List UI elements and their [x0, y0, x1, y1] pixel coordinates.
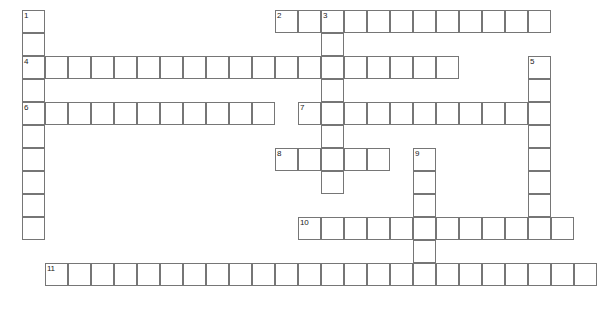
crossword-cell[interactable] — [160, 102, 183, 125]
crossword-cell[interactable] — [344, 263, 367, 286]
crossword-cell[interactable] — [528, 217, 551, 240]
crossword-cell[interactable] — [321, 33, 344, 56]
crossword-cell[interactable] — [252, 56, 275, 79]
crossword-cell[interactable] — [160, 56, 183, 79]
crossword-cell[interactable] — [551, 263, 574, 286]
crossword-cell[interactable] — [505, 10, 528, 33]
crossword-cell[interactable] — [367, 148, 390, 171]
crossword-cell[interactable] — [413, 10, 436, 33]
crossword-cell[interactable] — [459, 263, 482, 286]
crossword-cell[interactable] — [252, 263, 275, 286]
crossword-cell[interactable] — [505, 102, 528, 125]
crossword-cell[interactable] — [68, 102, 91, 125]
crossword-cell[interactable] — [22, 125, 45, 148]
crossword-cell[interactable] — [390, 102, 413, 125]
crossword-cell[interactable] — [367, 102, 390, 125]
crossword-cell[interactable] — [321, 171, 344, 194]
crossword-cell[interactable] — [436, 263, 459, 286]
crossword-cell[interactable] — [436, 102, 459, 125]
crossword-cell[interactable] — [321, 148, 344, 171]
crossword-cell[interactable] — [229, 56, 252, 79]
crossword-cell[interactable] — [114, 263, 137, 286]
crossword-cell[interactable] — [344, 217, 367, 240]
crossword-cell[interactable] — [390, 10, 413, 33]
crossword-cell[interactable] — [436, 56, 459, 79]
crossword-cell[interactable] — [482, 102, 505, 125]
crossword-cell[interactable] — [252, 102, 275, 125]
crossword-cell[interactable] — [298, 10, 321, 33]
crossword-cell[interactable] — [413, 56, 436, 79]
crossword-cell[interactable] — [390, 217, 413, 240]
crossword-cell[interactable] — [390, 56, 413, 79]
crossword-cell[interactable] — [459, 217, 482, 240]
crossword-cell[interactable] — [68, 263, 91, 286]
crossword-cell[interactable] — [22, 217, 45, 240]
crossword-cell[interactable] — [22, 79, 45, 102]
crossword-cell[interactable] — [344, 10, 367, 33]
crossword-cell[interactable] — [321, 217, 344, 240]
crossword-cell[interactable] — [298, 56, 321, 79]
crossword-cell[interactable] — [91, 56, 114, 79]
crossword-cell[interactable] — [551, 217, 574, 240]
crossword-cell[interactable] — [22, 171, 45, 194]
crossword-cell[interactable] — [459, 10, 482, 33]
crossword-cell[interactable] — [482, 263, 505, 286]
crossword-cell[interactable] — [367, 10, 390, 33]
crossword-cell[interactable] — [114, 56, 137, 79]
crossword-cell[interactable] — [413, 217, 436, 240]
crossword-cell[interactable] — [137, 56, 160, 79]
crossword-cell[interactable] — [137, 102, 160, 125]
crossword-cell[interactable] — [367, 263, 390, 286]
crossword-cell[interactable] — [528, 171, 551, 194]
crossword-cell[interactable] — [528, 148, 551, 171]
crossword-cell[interactable] — [344, 56, 367, 79]
crossword-cell[interactable] — [413, 240, 436, 263]
crossword-cell[interactable] — [413, 263, 436, 286]
crossword-cell[interactable] — [344, 148, 367, 171]
crossword-cell[interactable] — [206, 56, 229, 79]
crossword-cell[interactable] — [321, 56, 344, 79]
crossword-cell[interactable] — [114, 102, 137, 125]
crossword-cell[interactable] — [45, 102, 68, 125]
crossword-cell[interactable] — [321, 125, 344, 148]
crossword-cell[interactable] — [298, 263, 321, 286]
crossword-cell[interactable] — [22, 194, 45, 217]
crossword-cell[interactable] — [183, 56, 206, 79]
crossword-cell[interactable] — [528, 194, 551, 217]
crossword-grid[interactable]: 1234567891011 — [0, 0, 609, 314]
crossword-cell[interactable] — [528, 263, 551, 286]
crossword-cell[interactable] — [275, 263, 298, 286]
crossword-cell[interactable] — [183, 263, 206, 286]
crossword-cell[interactable] — [275, 56, 298, 79]
crossword-cell[interactable] — [528, 79, 551, 102]
crossword-cell[interactable] — [321, 263, 344, 286]
crossword-cell[interactable] — [344, 102, 367, 125]
crossword-cell[interactable] — [528, 102, 551, 125]
crossword-cell[interactable] — [505, 263, 528, 286]
crossword-cell[interactable] — [528, 10, 551, 33]
crossword-cell[interactable] — [160, 263, 183, 286]
crossword-cell[interactable] — [367, 56, 390, 79]
crossword-cell[interactable] — [321, 102, 344, 125]
crossword-cell[interactable] — [367, 217, 390, 240]
crossword-cell[interactable] — [137, 263, 160, 286]
crossword-cell[interactable] — [68, 56, 91, 79]
crossword-cell[interactable] — [459, 102, 482, 125]
crossword-cell[interactable] — [574, 263, 597, 286]
crossword-cell[interactable] — [390, 263, 413, 286]
crossword-cell[interactable] — [436, 10, 459, 33]
crossword-cell[interactable] — [436, 217, 459, 240]
crossword-cell[interactable] — [45, 56, 68, 79]
crossword-cell[interactable] — [505, 217, 528, 240]
crossword-cell[interactable] — [22, 148, 45, 171]
crossword-cell[interactable] — [482, 10, 505, 33]
crossword-cell[interactable] — [91, 102, 114, 125]
crossword-cell[interactable] — [413, 102, 436, 125]
crossword-cell[interactable] — [229, 102, 252, 125]
crossword-cell[interactable] — [206, 263, 229, 286]
crossword-cell[interactable] — [229, 263, 252, 286]
crossword-cell[interactable] — [206, 102, 229, 125]
crossword-cell[interactable] — [413, 171, 436, 194]
crossword-cell[interactable] — [91, 263, 114, 286]
crossword-cell[interactable] — [298, 148, 321, 171]
